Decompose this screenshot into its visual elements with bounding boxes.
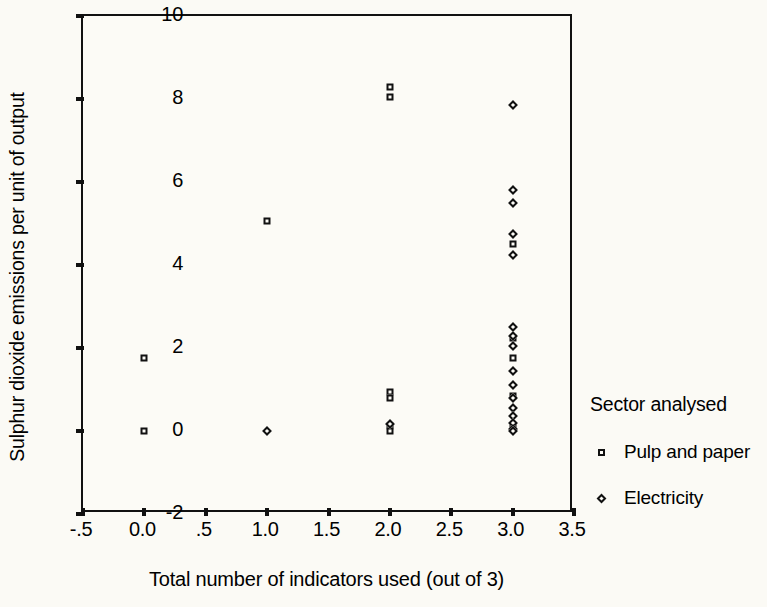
y-axis-title: Sulphur dioxide emissions per unit of ou…: [6, 28, 30, 526]
x-axis-title: Total number of indicators used (out of …: [81, 568, 572, 591]
y-axis-tick-label: 2: [143, 335, 183, 358]
marker-shape: [598, 449, 605, 456]
data-point-diamond: [508, 366, 518, 376]
legend-item-label: Pulp and paper: [624, 441, 750, 463]
data-point-diamond: [508, 229, 518, 239]
data-point-square: [386, 394, 393, 401]
legend-entries: Pulp and paperElectricity: [590, 442, 766, 508]
x-axis-tick-label: .5: [196, 518, 212, 541]
data-point-diamond: [508, 185, 518, 195]
legend-item-label: Electricity: [624, 487, 703, 509]
y-axis-tick-label: 10: [143, 3, 183, 26]
data-point-diamond: [262, 426, 272, 436]
data-point-square: [509, 355, 516, 362]
diamond-marker-icon: [590, 495, 612, 502]
x-axis-tick-label: 1.0: [252, 518, 279, 541]
x-axis-tick-label: 3.0: [497, 518, 524, 541]
data-point-square: [386, 83, 393, 90]
data-point-diamond: [508, 250, 518, 260]
x-axis-tick-label: -.5: [70, 518, 92, 541]
marker-shape: [596, 493, 606, 503]
y-axis-tick-label: 4: [143, 252, 183, 275]
legend: Sector analysed Pulp and paperElectricit…: [590, 393, 766, 534]
legend-item: Electricity: [590, 488, 766, 508]
y-axis-title-container: Sulphur dioxide emissions per unit of ou…: [8, 14, 32, 512]
data-point-diamond: [508, 100, 518, 110]
legend-item: Pulp and paper: [590, 442, 766, 462]
data-point-square: [386, 93, 393, 100]
square-marker-icon: [590, 449, 612, 456]
data-point-diamond: [508, 341, 518, 351]
data-point-diamond: [508, 380, 518, 390]
data-point-square: [264, 218, 271, 225]
x-axis-tick-label: 0.0: [129, 518, 156, 541]
data-point-square: [509, 241, 516, 248]
x-axis-tick-label: 2.0: [374, 518, 401, 541]
x-axis-tick-label: 2.5: [436, 518, 463, 541]
x-axis-tick-label: 1.5: [313, 518, 340, 541]
y-axis-tick-label: 0: [143, 418, 183, 441]
x-axis-tick: [572, 508, 576, 516]
y-axis-tick-label: 6: [143, 169, 183, 192]
x-axis-tick-label: 3.5: [559, 518, 586, 541]
y-axis-tick-label: 8: [143, 86, 183, 109]
data-point-diamond: [508, 198, 518, 208]
chart-canvas: Sulphur dioxide emissions per unit of ou…: [0, 0, 767, 607]
legend-title: Sector analysed: [590, 393, 766, 416]
